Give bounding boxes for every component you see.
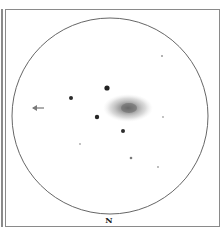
star [104,85,109,90]
north-label: N [103,215,115,225]
star [121,129,125,133]
star [161,55,163,57]
star [79,143,81,145]
galaxy-core [121,103,137,113]
star [95,115,99,119]
star [69,96,73,100]
eyepiece-view [0,0,223,237]
star [157,166,159,168]
arrow-icon [32,105,44,111]
star [130,157,133,160]
star [162,116,164,118]
